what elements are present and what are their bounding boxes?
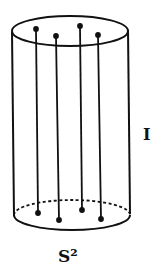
fiber-bottom-dot	[80, 208, 84, 212]
fiber-bottom-dot	[36, 211, 40, 215]
fiber-line	[80, 26, 82, 210]
fiber-top-dot	[78, 24, 82, 28]
fiber-top-dot	[34, 27, 38, 31]
left-wall	[12, 32, 14, 216]
top-ellipse	[12, 16, 128, 46]
fiber-line	[98, 35, 101, 219]
cylinder-diagram: I S²	[0, 0, 158, 275]
fiber-line	[56, 36, 59, 220]
fiber-line	[36, 29, 38, 213]
fiber-bottom-dot	[99, 217, 103, 221]
fiber-bottom-dot	[57, 218, 61, 222]
bottom-ellipse-back	[14, 200, 130, 215]
fibers	[34, 24, 103, 222]
bottom-ellipse-front	[14, 215, 130, 230]
fiber-top-dot	[96, 33, 100, 37]
interval-label: I	[143, 125, 150, 144]
fiber-top-dot	[54, 34, 58, 38]
sphere-label: S²	[58, 246, 78, 266]
right-wall	[128, 30, 130, 214]
